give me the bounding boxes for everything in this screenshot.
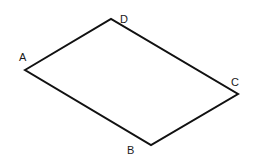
vertex-label-d: D — [120, 13, 128, 25]
vertex-label-b: B — [127, 144, 134, 156]
vertex-label-c: C — [231, 76, 239, 88]
parallelogram-abcd — [25, 19, 238, 145]
parallelogram-diagram: A D C B — [0, 0, 257, 165]
vertex-label-a: A — [19, 51, 27, 63]
